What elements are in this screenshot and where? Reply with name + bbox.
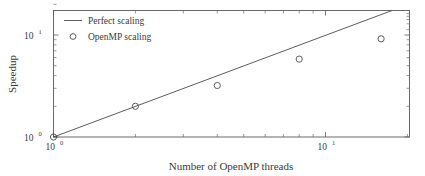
scaling-chart-figure: Perfect scaling OpenMP scaling 10 1 10 0… — [0, 0, 425, 176]
y-tick-label-upper: 10 — [24, 31, 34, 41]
data-point-marker — [378, 36, 384, 42]
y-tick-exponent-upper: 1 — [39, 28, 42, 35]
x-tick-labels: 10 0 10 1 — [46, 139, 336, 152]
x-axis-title: Number of OpenMP threads — [169, 160, 294, 172]
x-tick-exponent-right: 1 — [332, 139, 335, 146]
x-tick-label-left: 10 — [46, 142, 56, 152]
y-tick-exponent-lower: 0 — [39, 130, 42, 137]
legend-circle-marker-icon — [70, 34, 76, 40]
data-point-marker — [296, 56, 302, 62]
legend-label-openmp-scaling: OpenMP scaling — [88, 32, 151, 42]
x-tick-label-right: 10 — [318, 142, 328, 152]
chart-canvas: Perfect scaling OpenMP scaling 10 1 10 0… — [0, 0, 425, 176]
x-tick-exponent-left: 0 — [60, 139, 63, 146]
x-axis-minor-ticks — [135, 11, 407, 138]
y-axis-major-ticks — [54, 35, 410, 137]
legend-label-perfect-scaling: Perfect scaling — [88, 16, 144, 26]
y-tick-labels: 10 1 10 0 — [24, 28, 42, 143]
x-axis-major-ticks — [54, 11, 326, 138]
y-axis-title: Speedup — [6, 55, 18, 93]
plot-frame — [54, 11, 410, 138]
perfect-scaling-line — [54, 11, 393, 138]
y-tick-label-lower: 10 — [24, 133, 34, 143]
openmp-scaling-markers — [50, 36, 384, 140]
data-point-marker — [214, 82, 220, 88]
chart-legend: Perfect scaling OpenMP scaling — [64, 16, 151, 42]
